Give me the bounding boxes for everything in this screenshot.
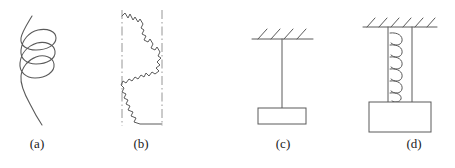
mass-on-thin-string-icon bbox=[225, 0, 340, 140]
panel-c bbox=[225, 0, 340, 140]
panel-d-caption: (d) bbox=[384, 136, 444, 152]
helical-coil-curve-icon bbox=[0, 0, 110, 140]
caption-row: (a) (b) (c) (d) bbox=[0, 136, 455, 168]
mass-on-coiled-column-icon bbox=[345, 0, 455, 140]
panel-a bbox=[0, 0, 110, 140]
panel-a-caption: (a) bbox=[7, 136, 67, 152]
figure-container: (a) (b) (c) (d) bbox=[0, 0, 455, 168]
panel-c-caption: (c) bbox=[253, 136, 313, 152]
panel-b bbox=[100, 0, 200, 140]
hanging-mass-block bbox=[369, 102, 431, 132]
ceiling-hatching bbox=[258, 29, 306, 39]
random-walk-chain-icon bbox=[100, 0, 200, 140]
column-coil-segments bbox=[390, 33, 402, 102]
panel-b-caption: (b) bbox=[111, 136, 171, 152]
panel-d bbox=[345, 0, 455, 140]
ceiling-hatching bbox=[367, 18, 435, 27]
hanging-mass-block bbox=[258, 108, 306, 124]
